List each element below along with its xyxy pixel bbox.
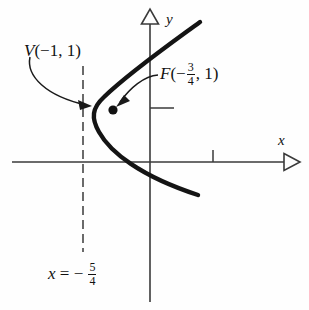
directrix-label-equals: = [60, 264, 70, 283]
focus-label-comma: , [196, 64, 200, 83]
vertex-annotation-arrowhead-icon [78, 100, 92, 110]
vertex-label: V(−1, 1) [24, 42, 81, 59]
x-axis-label: x [278, 133, 285, 148]
vertex-label-close-paren: ) [75, 41, 81, 60]
directrix-label-minus-sign: − [74, 264, 84, 283]
y-axis-label: y [166, 12, 173, 27]
focus-label-minus-sign: − [176, 64, 186, 83]
focus-label: F(−34, 1) [160, 62, 218, 88]
focus-fraction-numerator: 3 [187, 61, 195, 74]
directrix-fraction-denominator: 4 [88, 274, 96, 288]
focus-label-close-paren: ) [213, 64, 219, 83]
focus-annotation-arrowhead-icon [116, 95, 130, 107]
focus-fraction-denominator: 4 [187, 74, 195, 88]
focus-label-name: F [160, 64, 170, 83]
directrix-label: x = − 54 [48, 262, 97, 288]
directrix-fraction-numerator: 5 [88, 261, 96, 274]
vertex-label-y-value: 1 [67, 41, 76, 60]
directrix-label-fraction: 54 [88, 261, 96, 287]
focus-label-y-value: 1 [204, 64, 213, 83]
focus-label-fraction: 34 [187, 61, 195, 87]
y-axis-arrowhead-icon [142, 9, 159, 24]
vertex-label-name: V [24, 41, 34, 60]
vertex-annotation-arrow-line [29, 57, 86, 105]
directrix-label-variable: x [48, 264, 56, 283]
parabola-figure: y x V(−1, 1) F(−34, 1) x = − 54 [0, 0, 309, 310]
x-axis-arrowhead-icon [284, 154, 300, 171]
vertex-label-x-value: −1, [40, 41, 62, 60]
